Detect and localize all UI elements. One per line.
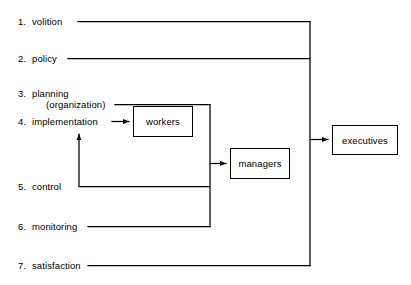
stage-label-implementation: implementation [32, 116, 98, 127]
node-box-managers: managers [230, 148, 290, 179]
stage-number-1: 1. [18, 16, 26, 27]
stage-label-satisfaction: satisfaction [32, 260, 81, 271]
stage-label-planning: planning [32, 88, 69, 99]
diagram-canvas: 1. volition 2. policy 3. planning (organ… [0, 0, 411, 285]
stage-number-5: 5. [18, 181, 26, 192]
stage-number-3: 3. [18, 88, 26, 99]
node-box-workers: workers [133, 106, 193, 137]
stage-number-2: 2. [18, 53, 26, 64]
stage-number-6: 6. [18, 221, 26, 232]
stage-label-monitoring: monitoring [32, 221, 77, 232]
stage-label-volition: volition [32, 16, 62, 27]
stage-number-4: 4. [18, 116, 26, 127]
stage-label-control: control [32, 181, 61, 192]
stage-sublabel-organization: (organization) [46, 99, 106, 110]
stage-label-policy: policy [32, 53, 57, 64]
stage-number-7: 7. [18, 260, 26, 271]
node-box-executives: executives [332, 125, 398, 155]
